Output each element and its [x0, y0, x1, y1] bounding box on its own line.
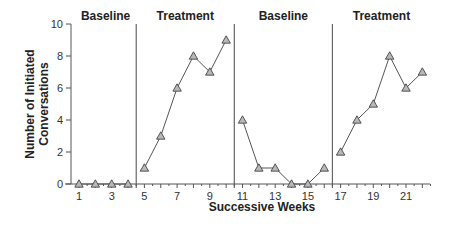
x-tick-label: 3 [109, 190, 115, 202]
triangle-marker [418, 68, 426, 75]
x-tick-label: 17 [334, 190, 346, 202]
phase-label-baseline: Baseline [81, 9, 131, 23]
triangle-marker [173, 84, 181, 91]
triangle-marker [189, 52, 197, 59]
x-tick-label: 1 [76, 190, 82, 202]
triangle-marker [91, 180, 99, 187]
y-tick-label: 2 [57, 146, 63, 158]
phase-label-treatment: Treatment [157, 9, 214, 23]
y-tick-label: 10 [51, 18, 63, 30]
phase-labels: BaselineTreatmentBaselineTreatment [81, 9, 410, 23]
phase-series-4 [336, 52, 426, 155]
triangle-marker [75, 180, 83, 187]
y-axis-title-line-2: Conversations [37, 62, 51, 146]
x-tick-label: 19 [367, 190, 379, 202]
y-axis-title-line-1: Number of Initiated [23, 49, 37, 158]
triangle-marker [124, 180, 132, 187]
series-line [243, 120, 325, 184]
triangle-marker [222, 36, 230, 43]
ab-design-chart: 024681013579111315171921 BaselineTreatme… [0, 0, 451, 233]
phase-label-treatment: Treatment [353, 9, 410, 23]
triangle-marker [369, 100, 377, 107]
triangle-marker [238, 116, 246, 123]
y-axis-title: Number of Initiated Conversations [23, 49, 51, 158]
phase-series-2 [140, 36, 230, 171]
triangle-marker [385, 52, 393, 59]
y-tick-label: 0 [57, 178, 63, 190]
triangle-marker [271, 164, 279, 171]
series-line [144, 40, 226, 168]
triangle-marker [336, 148, 344, 155]
phase-series-3 [238, 116, 328, 187]
triangle-marker [108, 180, 116, 187]
data-series [75, 36, 427, 187]
y-tick-label: 4 [57, 114, 63, 126]
triangle-marker [255, 164, 263, 171]
triangle-marker [320, 164, 328, 171]
axes: 024681013579111315171921 [51, 18, 431, 202]
x-axis-title: Successive Weeks [209, 200, 316, 214]
series-line [341, 56, 423, 152]
phase-change-lines [136, 24, 332, 188]
triangle-marker [157, 132, 165, 139]
x-tick-label: 21 [400, 190, 412, 202]
phase-series-1 [75, 180, 132, 187]
triangle-marker [140, 164, 148, 171]
x-tick-label: 7 [174, 190, 180, 202]
phase-label-baseline: Baseline [259, 9, 309, 23]
y-tick-label: 8 [57, 50, 63, 62]
x-tick-label: 5 [141, 190, 147, 202]
y-tick-label: 6 [57, 82, 63, 94]
